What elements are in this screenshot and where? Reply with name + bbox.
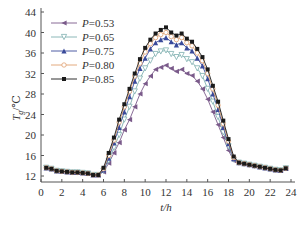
x-tick-label: 8 (122, 186, 128, 198)
circle-marker-icon (179, 35, 183, 39)
triangle-left-marker-icon (143, 81, 148, 86)
square-marker-icon (211, 84, 215, 88)
y-axis-title-unit: /℃ (10, 95, 22, 110)
square-marker-icon (268, 167, 272, 171)
triangle-up-marker-icon (179, 40, 184, 45)
x-tick-label: 18 (223, 186, 235, 198)
circle-marker-icon (169, 34, 173, 38)
square-marker-icon (86, 171, 90, 175)
square-marker-icon (65, 170, 69, 174)
square-marker-icon (174, 34, 178, 38)
square-marker-icon (258, 165, 262, 169)
x-tick-label: 24 (286, 186, 298, 198)
triangle-left-marker-icon (117, 140, 122, 145)
triangle-left-marker-icon (163, 63, 168, 68)
square-marker-icon (200, 55, 204, 59)
triangle-left-marker-icon (137, 91, 142, 96)
x-tick-label: 6 (101, 186, 107, 198)
square-marker-icon (133, 72, 137, 76)
square-marker-icon (273, 168, 277, 172)
square-marker-icon (190, 40, 194, 44)
triangle-up-marker-icon (189, 48, 194, 53)
square-marker-icon (195, 47, 199, 51)
square-marker-icon (221, 119, 225, 123)
triangle-left-marker-icon (189, 73, 194, 78)
triangle-down-marker-icon (143, 66, 148, 71)
legend-item: P=0.65 (51, 31, 115, 43)
square-marker-icon (44, 166, 48, 170)
y-tick-label: 12 (25, 170, 36, 182)
square-marker-icon (91, 173, 95, 177)
y-tick-label: 28 (25, 88, 37, 100)
legend-label: P=0.85 (81, 73, 115, 85)
circle-marker-icon (185, 41, 189, 45)
y-tick-label: 20 (25, 129, 37, 141)
square-marker-icon (49, 167, 53, 171)
circle-marker-icon (164, 30, 168, 34)
square-marker-icon (81, 171, 85, 175)
triangle-down-marker-icon (148, 58, 153, 63)
triangle-left-marker-icon (210, 109, 215, 114)
x-tick-label: 0 (38, 186, 44, 198)
y-tick-label: 32 (25, 68, 36, 80)
x-tick-label: 22 (265, 186, 276, 198)
square-marker-icon (247, 163, 251, 167)
triangle-down-marker-icon (174, 55, 179, 60)
triangle-left-marker-icon (200, 86, 205, 91)
legend-item: P=0.53 (51, 17, 115, 29)
x-tick-label: 12 (161, 186, 172, 198)
legend-item: P=0.75 (51, 45, 115, 57)
x-tick-label: 16 (202, 186, 214, 198)
square-marker-icon (154, 32, 158, 36)
square-marker-icon (75, 170, 79, 174)
triangle-up-marker-icon (174, 42, 179, 47)
triangle-left-marker-icon (158, 65, 163, 70)
y-tick-label: 16 (25, 150, 37, 162)
square-marker-icon (60, 169, 64, 173)
triangle-left-marker-icon (179, 67, 184, 72)
square-marker-icon (138, 57, 142, 61)
legend-item: P=0.85 (51, 73, 115, 85)
legend: P=0.53P=0.65P=0.75P=0.80P=0.85 (51, 17, 115, 85)
square-marker-icon (206, 67, 210, 71)
square-marker-icon (237, 161, 241, 165)
square-marker-icon (62, 77, 66, 81)
square-marker-icon (263, 166, 267, 170)
series-group (44, 25, 289, 177)
triangle-up-marker-icon (158, 37, 163, 42)
y-axis-title: Tg/℃ (10, 95, 25, 121)
square-marker-icon (253, 164, 257, 168)
x-tick-label: 4 (80, 186, 86, 198)
triangle-down-marker-icon (132, 89, 137, 94)
legend-label: P=0.80 (81, 59, 115, 71)
square-marker-icon (279, 168, 283, 172)
square-marker-icon (55, 169, 59, 173)
triangle-left-marker-icon (61, 20, 66, 25)
square-marker-icon (112, 136, 116, 140)
triangle-left-marker-icon (132, 104, 137, 109)
x-tick-label: 10 (140, 186, 152, 198)
square-marker-icon (117, 118, 121, 122)
y-tick-label: 40 (25, 27, 37, 39)
y-tick-label: 36 (25, 47, 37, 59)
legend-label: P=0.75 (81, 45, 115, 57)
x-axis-title: t/h (160, 201, 172, 213)
x-tick-label: 20 (244, 186, 256, 198)
circle-marker-icon (159, 32, 163, 36)
square-marker-icon (284, 166, 288, 170)
triangle-down-marker-icon (137, 76, 142, 81)
square-marker-icon (169, 31, 173, 35)
triangle-left-marker-icon (122, 127, 127, 132)
square-marker-icon (180, 32, 184, 36)
square-marker-icon (159, 28, 163, 32)
circle-marker-icon (174, 37, 178, 41)
series-p-0-53 (44, 63, 289, 178)
triangle-down-marker-icon (195, 66, 200, 71)
svg-text:Tg/℃: Tg/℃ (10, 95, 25, 121)
square-marker-icon (122, 102, 126, 106)
square-marker-icon (232, 155, 236, 159)
square-marker-icon (128, 87, 132, 91)
y-tick-label: 44 (25, 6, 37, 18)
triangle-down-marker-icon (127, 104, 132, 109)
square-marker-icon (70, 170, 74, 174)
